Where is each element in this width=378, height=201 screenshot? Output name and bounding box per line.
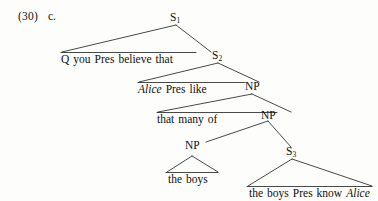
node-np3-label: NP xyxy=(185,139,200,151)
branch-np3-left xyxy=(167,156,192,172)
branch-np2-right xyxy=(268,121,291,147)
branch-s3-left xyxy=(248,159,292,186)
node-np2: NP xyxy=(261,110,276,122)
terminal-word: boys xyxy=(186,173,208,185)
branch-s3-right xyxy=(292,159,372,186)
terminal-word: you xyxy=(73,53,90,65)
tree-branch-lines xyxy=(0,0,378,201)
terminal-word: Pres xyxy=(293,187,313,199)
branch-s1-right xyxy=(176,25,211,52)
terminal-string-t5: theboysPresknowAlice xyxy=(249,188,370,200)
terminal-word: many xyxy=(178,113,204,125)
branch-s2-left xyxy=(139,63,218,82)
terminal-word: like xyxy=(189,83,206,95)
branch-np3-right xyxy=(192,156,218,172)
terminal-word: that xyxy=(156,53,173,65)
terminal-word: Q xyxy=(61,53,69,65)
node-np1-label: NP xyxy=(245,80,260,92)
terminal-word: the xyxy=(249,187,263,199)
terminal-string-t3: thatmanyof xyxy=(157,114,217,126)
terminal-word: Pres xyxy=(95,53,115,65)
node-s2-subscript: 2 xyxy=(219,54,223,63)
terminal-word: the xyxy=(168,173,182,185)
node-s2-label: S xyxy=(212,49,218,61)
terminal-word: of xyxy=(208,113,218,125)
terminal-word: boys xyxy=(267,187,289,199)
node-s3: S3 xyxy=(286,146,296,158)
node-s1: S1 xyxy=(170,12,180,24)
branch-np1-left xyxy=(158,94,252,112)
node-np1: NP xyxy=(245,81,260,93)
terminal-word: that xyxy=(157,113,174,125)
terminal-word: know xyxy=(317,187,343,199)
terminal-word: Alice xyxy=(346,187,370,199)
terminal-string-t1: QyouPresbelievethat xyxy=(61,54,173,66)
terminal-word: Alice xyxy=(138,83,162,95)
node-np2-label: NP xyxy=(261,109,276,121)
syntax-tree-figure: (30) c. xyxy=(0,0,378,201)
branch-s1-left xyxy=(62,25,176,52)
terminal-string-t2: AlicePreslike xyxy=(138,84,207,96)
node-np3: NP xyxy=(185,140,200,152)
terminal-string-t4: theboys xyxy=(168,174,208,186)
node-s2: S2 xyxy=(212,50,222,62)
node-s3-subscript: 3 xyxy=(293,150,297,159)
terminal-word: Pres xyxy=(166,83,186,95)
node-s1-label: S xyxy=(170,11,176,23)
node-s1-subscript: 1 xyxy=(177,16,181,25)
node-s3-label: S xyxy=(286,145,292,157)
terminal-word: believe xyxy=(118,53,151,65)
